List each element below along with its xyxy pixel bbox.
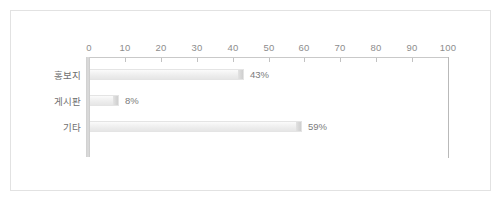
x-tick-label-100: 100 [428,42,468,53]
x-tick-mark-40 [233,58,234,62]
bar-2[interactable] [90,121,302,132]
x-tick-label-60: 60 [284,42,324,53]
x-tick-mark-70 [340,58,341,62]
x-tick-mark-90 [412,58,413,62]
x-tick-label-40: 40 [213,42,253,53]
x-tick-label-10: 10 [105,42,145,53]
x-tick-label-0: 0 [69,42,109,53]
bar-0[interactable] [90,69,244,80]
bar-end-cap-icon [113,96,118,105]
category-label-2: 기타 [19,122,81,134]
x-tick-label-50: 50 [249,42,289,53]
x-tick-mark-50 [269,58,270,62]
category-label-0: 홍보지 [19,70,81,82]
x-tick-label-80: 80 [356,42,396,53]
bar-value-0: 43% [250,69,269,80]
x-tick-mark-30 [197,58,198,62]
x-tick-mark-80 [376,58,377,62]
x-tick-mark-60 [304,58,305,62]
x-tick-label-70: 70 [320,42,360,53]
x-tick-label-30: 30 [177,42,217,53]
bar-chart-figure: 0 10 20 30 40 50 60 70 80 90 100 홍보지 게시판… [10,10,491,191]
x-tick-label-20: 20 [141,42,181,53]
x-tick-mark-20 [161,58,162,62]
x-tick-mark-10 [125,58,126,62]
bar-end-cap-icon [296,122,301,131]
bar-value-1: 8% [125,95,139,106]
plot-area: 0 10 20 30 40 50 60 70 80 90 100 홍보지 게시판… [11,11,492,192]
category-label-1: 게시판 [19,96,81,108]
bar-1[interactable] [90,95,119,106]
plot-right-border [448,57,449,158]
bar-end-cap-icon [238,70,243,79]
x-tick-label-90: 90 [392,42,432,53]
bar-value-2: 59% [308,121,327,132]
